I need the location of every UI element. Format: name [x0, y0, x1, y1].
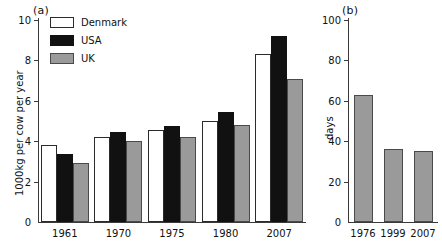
- y-tick-mark: [344, 141, 348, 142]
- y-tick-mark: [344, 20, 348, 21]
- bar-uk-1970: [126, 141, 142, 222]
- y-tick-label: 2: [4, 176, 31, 187]
- bar-denmark-1961: [41, 145, 57, 222]
- legend: Denmark USA UK: [50, 14, 127, 68]
- y-tick-label: 0: [314, 217, 341, 228]
- y-tick-label: 4: [4, 136, 31, 147]
- panel-b: (b) days 020406080100 197619992007: [310, 0, 442, 252]
- panel-b-x-axis: [348, 222, 438, 223]
- y-tick-label: 100: [314, 15, 341, 26]
- bar-usa-1961: [57, 154, 73, 222]
- panel-a-x-axis: [38, 222, 306, 223]
- bar-uk-1980: [234, 125, 250, 222]
- legend-label-usa: USA: [81, 35, 102, 46]
- legend-label-denmark: Denmark: [81, 17, 127, 28]
- legend-item-uk: UK: [50, 50, 127, 66]
- legend-swatch-icon-uk: [50, 53, 74, 64]
- y-tick-mark: [344, 182, 348, 183]
- bar-uk-1961: [73, 163, 89, 222]
- panel-b-tag: (b): [342, 4, 358, 17]
- bar-usa-2007: [271, 36, 287, 222]
- y-tick-mark: [34, 101, 38, 102]
- legend-item-denmark: Denmark: [50, 14, 127, 30]
- y-tick-mark: [34, 20, 38, 21]
- panel-a-tag: (a): [33, 4, 49, 17]
- y-tick-mark: [344, 101, 348, 102]
- legend-item-usa: USA: [50, 32, 127, 48]
- x-tick-label-1976: 1976: [350, 228, 375, 239]
- y-tick-mark: [34, 182, 38, 183]
- bar-usa-1975: [164, 126, 180, 222]
- x-tick-label-1961: 1961: [52, 228, 77, 239]
- bar-usa-1980: [218, 112, 234, 222]
- y-tick-mark: [34, 60, 38, 61]
- bar-denmark-1975: [148, 130, 164, 222]
- y-tick-mark: [344, 60, 348, 61]
- x-tick-label-1980: 1980: [213, 228, 238, 239]
- panel-a-y-axis: [38, 18, 39, 223]
- legend-swatch-icon-denmark: [50, 17, 74, 28]
- x-tick-label-2007: 2007: [410, 228, 435, 239]
- panel-a: (a) 1000kg per cow per year 0246810 1961…: [0, 0, 310, 252]
- y-tick-mark: [34, 141, 38, 142]
- y-tick-label: 60: [314, 95, 341, 106]
- figure-container: (a) 1000kg per cow per year 0246810 1961…: [0, 0, 442, 252]
- x-tick-label-2007: 2007: [266, 228, 291, 239]
- y-tick-label: 8: [4, 55, 31, 66]
- bar-denmark-2007: [255, 54, 271, 222]
- bar-denmark-1980: [202, 121, 218, 222]
- y-tick-label: 40: [314, 136, 341, 147]
- x-tick-label-1999: 1999: [380, 228, 405, 239]
- bar-days-1976: [354, 95, 373, 222]
- bar-uk-2007: [287, 79, 303, 222]
- y-tick-label: 80: [314, 55, 341, 66]
- bar-denmark-1970: [94, 137, 110, 222]
- y-tick-label: 0: [4, 217, 31, 228]
- legend-swatch-icon-usa: [50, 35, 74, 46]
- panel-b-y-axis: [348, 18, 349, 223]
- x-tick-label-1975: 1975: [159, 228, 184, 239]
- bar-days-1999: [384, 149, 403, 222]
- y-tick-label: 10: [4, 15, 31, 26]
- bar-uk-1975: [180, 137, 196, 222]
- y-tick-label: 6: [4, 95, 31, 106]
- y-tick-label: 20: [314, 176, 341, 187]
- legend-label-uk: UK: [81, 53, 95, 64]
- bar-usa-1970: [110, 132, 126, 222]
- x-tick-label-1970: 1970: [106, 228, 131, 239]
- bar-days-2007: [414, 151, 433, 222]
